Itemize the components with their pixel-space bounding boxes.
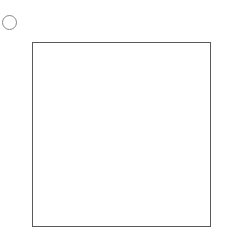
puzzle-grid xyxy=(32,42,211,227)
puzzle-label xyxy=(2,15,17,30)
